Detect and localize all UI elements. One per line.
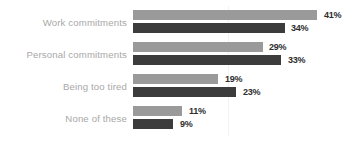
bar-value-label: 11% <box>189 106 206 116</box>
bar-series-a <box>133 106 182 116</box>
chart-group: None of these 11% 9% <box>0 104 356 132</box>
chart-group: Work commitments 41% 34% <box>0 8 356 36</box>
bar-series-a <box>133 42 263 52</box>
bar-value-label: 19% <box>225 74 242 84</box>
chart-group: Being too tired 19% 23% <box>0 72 356 100</box>
bar-series-b <box>133 119 173 129</box>
bar-value-label: 9% <box>180 119 193 129</box>
category-label: None of these <box>0 113 127 124</box>
bar-chart: Work commitments 41% 34% Personal commit… <box>0 0 356 142</box>
bar-value-label: 23% <box>243 87 260 97</box>
bar-series-b <box>133 55 281 65</box>
category-label: Work commitments <box>0 17 127 28</box>
plot-area: Work commitments 41% 34% Personal commit… <box>0 0 356 142</box>
category-label: Being too tired <box>0 81 127 92</box>
bar-value-label: 29% <box>269 42 286 52</box>
bar-value-label: 33% <box>288 55 305 65</box>
bar-series-a <box>133 10 317 20</box>
bar-value-label: 41% <box>324 10 341 20</box>
bar-series-b <box>133 87 236 97</box>
bar-series-b <box>133 23 285 33</box>
bar-value-label: 34% <box>291 23 308 33</box>
chart-group: Personal commitments 29% 33% <box>0 40 356 68</box>
bar-series-a <box>133 74 218 84</box>
category-label: Personal commitments <box>0 49 127 60</box>
